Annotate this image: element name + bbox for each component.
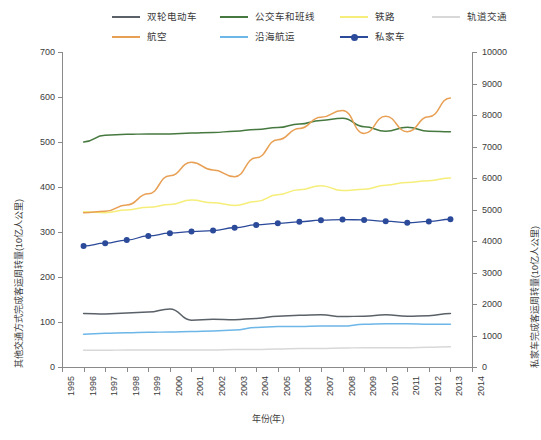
x-axis-tick-label: 2005 (282, 376, 292, 396)
legend-item-label: 铁路 (375, 11, 395, 23)
y-axis-right-tick-label: 10000 (482, 47, 507, 57)
y-axis-left-tick-label: 700 (40, 47, 55, 57)
series-line-轨道交通 (84, 347, 451, 351)
y-axis-left-tick-label: 0 (50, 362, 55, 372)
x-axis-tick-label: 1997 (109, 376, 119, 396)
x-axis-tick-label: 2007 (325, 376, 335, 396)
x-axis-tick-label: 1998 (131, 376, 141, 396)
series-marker-私家车 (318, 217, 324, 223)
y-axis-right-tick-label: 5000 (482, 205, 502, 215)
legend-line-icon (340, 11, 368, 23)
legend-row-2: 航空沿海航运私家车 (112, 28, 524, 46)
y-axis-right-title: 私家车完成客运周转量(10亿人公里) (528, 226, 541, 368)
x-axis-tick-label: 2001 (195, 376, 205, 396)
y-axis-left-title: 其他交通方式完成客运周转量(10亿人公里) (12, 199, 25, 368)
y-axis-right-tick-label: 4000 (482, 236, 502, 246)
legend-item-公交车和班线[interactable]: 公交车和班线 (220, 9, 315, 25)
x-axis-tick-label: 1995 (66, 376, 76, 396)
series-marker-私家车 (188, 229, 194, 235)
series-marker-私家车 (361, 217, 367, 223)
chart-legend: 双轮电动车公交车和班线铁路轨道交通 航空沿海航运私家车 (112, 6, 524, 46)
series-marker-私家车 (210, 228, 216, 234)
x-axis-tick-label: 2013 (454, 376, 464, 396)
legend-line-icon (432, 11, 460, 23)
legend-line-icon (340, 31, 368, 43)
legend-item-label: 航空 (147, 31, 167, 43)
series-line-航空 (84, 98, 451, 213)
x-axis-tick-label: 2003 (239, 376, 249, 396)
legend-line-icon (112, 11, 140, 23)
x-axis-tick-label: 2004 (260, 376, 270, 396)
legend-row-1: 双轮电动车公交车和班线铁路轨道交通 (112, 8, 524, 26)
series-marker-私家车 (102, 240, 108, 246)
series-marker-私家车 (447, 216, 453, 222)
y-axis-left-tick-label: 200 (40, 272, 55, 282)
series-line-双轮电动车 (84, 309, 451, 320)
legend-item-轨道交通[interactable]: 轨道交通 (432, 9, 507, 25)
y-axis-right-tick-label: 0 (482, 362, 487, 372)
y-axis-right-tick-label: 7000 (482, 142, 502, 152)
legend-line-icon (220, 31, 248, 43)
x-axis-tick-label: 2006 (303, 376, 313, 396)
series-marker-私家车 (404, 220, 410, 226)
y-axis-left-tick-label: 300 (40, 227, 55, 237)
x-axis-tick-label: 2014 (476, 376, 486, 396)
series-marker-私家车 (253, 222, 259, 228)
x-axis-tick-label: 2011 (411, 376, 421, 395)
series-marker-私家车 (426, 218, 432, 224)
x-axis-tick-label: 2002 (217, 376, 227, 396)
series-marker-私家车 (81, 243, 87, 249)
x-axis-tick-label: 1999 (152, 376, 162, 396)
x-axis-tick-label: 2010 (390, 376, 400, 396)
legend-item-label: 轨道交通 (467, 11, 507, 23)
series-marker-私家车 (296, 219, 302, 225)
y-axis-right-tick-label: 3000 (482, 268, 502, 278)
legend-item-双轮电动车[interactable]: 双轮电动车 (112, 9, 197, 25)
legend-item-label: 双轮电动车 (147, 11, 197, 23)
legend-item-航空[interactable]: 航空 (112, 29, 167, 45)
legend-line-icon (112, 31, 140, 43)
y-axis-right-tick-label: 8000 (482, 110, 502, 120)
x-axis-tick-label: 2000 (174, 376, 184, 396)
plot-area: 0100200300400500600700 01000200030004000… (62, 52, 473, 368)
series-line-沿海航运 (84, 324, 451, 334)
y-axis-left-tick-label: 600 (40, 92, 55, 102)
legend-item-label: 沿海航运 (255, 31, 295, 43)
series-line-私家车 (84, 219, 451, 246)
y-axis-right-tick-label: 9000 (482, 79, 502, 89)
series-line-铁路 (84, 178, 451, 213)
legend-item-label: 私家车 (375, 31, 405, 43)
legend-item-label: 公交车和班线 (255, 11, 315, 23)
legend-line-icon (220, 11, 248, 23)
series-marker-私家车 (275, 220, 281, 226)
series-marker-私家车 (232, 225, 238, 231)
y-axis-right-tick-label: 6000 (482, 173, 502, 183)
series-marker-私家车 (340, 217, 346, 223)
x-axis-title: 年份(年) (0, 412, 536, 425)
legend-item-私家车[interactable]: 私家车 (340, 29, 405, 45)
series-layer (62, 52, 473, 368)
series-marker-私家车 (124, 237, 130, 243)
legend-item-铁路[interactable]: 铁路 (340, 9, 395, 25)
y-axis-right-tick-label: 2000 (482, 299, 502, 309)
legend-item-沿海航运[interactable]: 沿海航运 (220, 29, 295, 45)
y-axis-right-tick-label: 1000 (482, 331, 502, 341)
x-axis-tick-label: 2008 (347, 376, 357, 396)
x-axis-tick-label: 2009 (368, 376, 378, 396)
series-marker-私家车 (383, 218, 389, 224)
y-axis-left-tick-label: 500 (40, 137, 55, 147)
series-marker-私家车 (145, 233, 151, 239)
x-axis-tick-label: 2012 (433, 376, 443, 396)
y-axis-left-tick-label: 100 (40, 317, 55, 327)
series-marker-私家车 (167, 230, 173, 236)
legend-marker-icon (351, 34, 358, 41)
x-axis-tick-label: 1996 (88, 376, 98, 396)
y-axis-left-tick-label: 400 (40, 182, 55, 192)
